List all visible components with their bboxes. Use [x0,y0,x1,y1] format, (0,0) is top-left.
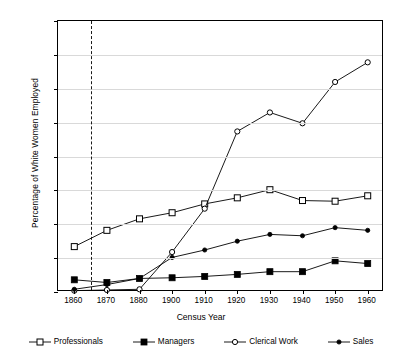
legend-marker-open-square-icon [29,337,51,347]
data-point-marker [234,271,240,277]
x-axis-title: Census Year [0,312,402,322]
legend-marker-filled-circle-icon [328,337,350,347]
y-axis-tick [54,89,58,90]
data-point-marker [37,339,43,345]
data-point-marker [202,273,208,279]
data-point-marker [300,198,306,204]
gridline [58,123,382,124]
legend-item-managers[interactable]: Managers [133,337,194,347]
legend-item-sales[interactable]: Sales [328,337,373,347]
x-axis-tick-label: 1960 [344,296,390,305]
series-line [74,62,367,290]
legend-marker-open-circle-icon [224,337,246,347]
chart-legend: ProfessionalsManagersClerical WorkSales [0,337,402,347]
y-axis-tick [54,123,58,124]
chart-figure: Percentage of White Women Employed 05101… [0,0,402,362]
data-point-marker [104,227,110,233]
data-point-marker [267,269,273,275]
x-axis-tick [368,290,369,294]
data-point-marker [234,195,240,201]
x-axis-tick [172,290,173,294]
y-axis-tick [54,292,58,293]
x-axis-tick [303,290,304,294]
annotation-vertical-dashed-line [91,21,92,290]
data-point-marker [141,339,147,345]
x-axis-tick [140,290,141,294]
legend-label: Sales [353,337,373,347]
data-point-marker [333,79,338,84]
legend-marker-filled-square-icon [133,337,155,347]
data-point-marker [365,261,371,267]
x-axis-tick [74,290,75,294]
legend-label: Professionals [54,337,103,347]
data-point-marker [137,276,141,280]
y-axis-tick [54,157,58,158]
x-axis-tick [107,290,108,294]
data-point-marker [268,232,272,236]
gridline [58,55,382,56]
data-point-marker [235,239,239,243]
series-line [74,190,367,247]
series-professionals [71,187,370,250]
y-axis-tick [54,258,58,259]
series-line [74,261,367,283]
y-axis-tick [54,190,58,191]
data-point-marker [170,249,175,254]
x-axis-tick [205,290,206,294]
data-point-marker [366,228,370,232]
data-point-marker [332,198,338,204]
gridline [58,190,382,191]
data-point-marker [337,340,341,344]
legend-item-professionals[interactable]: Professionals [29,337,103,347]
x-axis-tick [335,290,336,294]
legend-label: Managers [158,337,194,347]
plot-area [57,20,383,291]
gridline [58,89,382,90]
y-axis-tick [54,55,58,56]
data-point-marker [105,282,109,286]
data-point-marker [203,248,207,252]
data-point-marker [267,110,272,115]
legend-item-clerical-work[interactable]: Clerical Work [224,337,298,347]
series-managers [71,258,370,286]
legend-label: Clerical Work [249,337,298,347]
data-point-marker [333,226,337,230]
data-point-marker [169,275,175,281]
x-axis-tick [237,290,238,294]
data-point-marker [365,60,370,65]
data-point-marker [235,129,240,134]
gridline [58,224,382,225]
data-point-marker [233,339,238,344]
y-axis-title: Percentage of White Women Employed [30,33,40,273]
data-point-marker [365,193,371,199]
data-point-marker [300,269,306,275]
gridline [58,157,382,158]
data-point-marker [137,216,143,222]
data-point-marker [300,234,304,238]
y-axis-tick [54,21,58,22]
x-axis-tick [270,290,271,294]
gridline [58,258,382,259]
y-axis-tick [54,224,58,225]
data-point-marker [169,210,175,216]
data-point-marker [71,277,77,283]
data-point-marker [71,244,77,250]
data-point-marker [202,206,207,211]
